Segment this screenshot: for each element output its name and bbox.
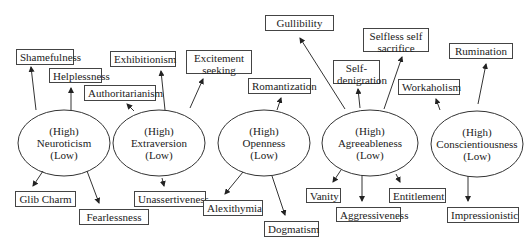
arrow-self-denigration [358,89,360,108]
outcome-box-rumination: Rumination [449,43,513,59]
trait-high-text: (High) [436,126,517,138]
trait-name-text: Openness [243,137,286,149]
outcome-box-dogmatism: Dogmatism [264,221,319,237]
trait-low-text: (Low) [37,149,91,161]
trait-name-text: Neuroticism [37,137,91,149]
outcome-box-glib-charm: Glib Charm [15,191,76,207]
trait-name-text: Agreeableness [338,137,402,149]
outcome-box-excitement-seeking: Excitement seeking [186,50,252,74]
outcome-box-romantization: Romantization [248,78,311,94]
outcome-box-exhibitionism: Exhibitionism [110,51,176,67]
outcome-box-workaholism: Workaholism [398,79,460,95]
outcome-box-vanity: Vanity [306,188,341,203]
trait-low-text: (Low) [436,150,517,162]
trait-label-neuroticism: (High)Neuroticism(Low) [37,125,91,161]
outcome-box-helplessness: Helplessness [49,68,102,83]
arrow-excitement-seeking [190,79,203,108]
arrow-shamefulness [31,67,36,110]
trait-label-agreeableness: (High)Agreeableness(Low) [338,125,402,161]
trait-label-extraversion: (High)Extraversion(Low) [131,125,187,161]
outcome-box-self-denigration: Self-denigration [333,60,380,84]
arrow-authoritarianism [127,104,134,111]
arrow-fearlessness [87,171,99,203]
outcome-box-aggressiveness: Aggressiveness [336,207,401,222]
arrow-alexithymia [225,172,243,194]
outcome-box-authoritarianism: Authoritarianism [84,85,156,101]
trait-name-text: Extraversion [131,137,187,149]
trait-label-openness: (High)Openness(Low) [243,125,286,161]
trait-low-text: (Low) [131,149,187,161]
outcome-box-entitlement: Entitlement [389,188,446,203]
trait-label-conscientiousness: (High)Conscientiousness(Low) [436,126,517,162]
outcome-box-impressionistic: Impressionistic [447,207,519,223]
trait-high-text: (High) [131,125,187,137]
trait-high-text: (High) [243,125,286,137]
outcome-box-unassertiveness: Unassertiveness [134,191,206,207]
arrow-vanity [333,170,341,182]
trait-high-text: (High) [338,125,402,137]
outcome-box-shamefulness: Shamefulness [16,49,74,65]
arrow-dogmatism [272,176,285,215]
arrow-rumination [478,64,486,104]
arrow-glib-charm [33,171,43,186]
trait-name-text: Conscientiousness [436,138,517,150]
arrow-entitlement [396,174,400,182]
outcome-box-selfless-self-sacrifice: Selfless self sacrifice [363,28,429,52]
outcome-box-gullibility: Gullibility [265,15,334,31]
trait-high-text: (High) [37,125,91,137]
trait-low-text: (Low) [338,149,402,161]
trait-low-text: (Low) [243,149,286,161]
arrow-workaholism [436,99,440,110]
arrow-unassertiveness [162,178,164,186]
outcome-box-fearlessness: Fearlessness [79,209,149,225]
outcome-box-alexithymia: Alexithymia [203,200,263,216]
arrow-romantization [277,98,281,110]
